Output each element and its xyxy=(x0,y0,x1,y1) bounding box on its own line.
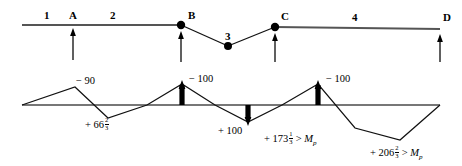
reaction-arrow-head-C xyxy=(272,33,278,41)
moment-label-pos-206-fraction: 23 xyxy=(395,145,399,159)
beam-segment-3-left xyxy=(181,25,228,46)
moment-label-pos-66: + 6623 xyxy=(85,117,109,131)
collapse-mechanism-group xyxy=(22,21,443,62)
joint-label-B: B xyxy=(188,10,195,21)
plastic-hinge-dot-C xyxy=(271,23,279,31)
beam-segment-4 xyxy=(275,27,440,29)
plastic-moment-symbol: Mp xyxy=(410,147,422,158)
greater-than-symbol: > xyxy=(296,133,302,144)
plastic-moment-bar-head-C xyxy=(315,80,322,89)
plastic-moment-symbol: Mp xyxy=(304,133,316,144)
reaction-arrow-head-A xyxy=(70,28,76,36)
support-reaction-arrows xyxy=(70,28,443,62)
greater-than-symbol: > xyxy=(402,147,408,158)
beam-segment-3-right xyxy=(228,27,275,46)
moment-label-pos-206-whole: + 206 xyxy=(370,147,394,158)
moment-label-pos-173: + 17313 > Mp xyxy=(264,131,317,147)
moment-label-pos-100: + 100 xyxy=(218,126,242,137)
moment-label-neg-90: − 90 xyxy=(76,76,95,87)
moment-label-pos-206: + 20623 > Mp xyxy=(370,145,423,161)
moment-label-pos-66-whole: + 66 xyxy=(85,119,104,130)
fraction-denominator: 3 xyxy=(289,139,293,146)
joint-label-A: A xyxy=(69,10,77,21)
plastic-moment-symbol-subscript: p xyxy=(313,139,317,147)
plastic-moment-symbol-base: M xyxy=(304,133,313,144)
plastic-hinge-dot-3 xyxy=(224,42,232,50)
reaction-arrow-head-B xyxy=(178,31,184,39)
joint-label-C: C xyxy=(281,11,289,22)
moment-label-neg-100-b: − 100 xyxy=(189,74,213,85)
plastic-hinge-dot-B xyxy=(177,21,185,29)
fraction-denominator: 3 xyxy=(395,153,399,160)
beam-moment-figure: 1 2 3 4 A B C D − 90 + 6623 − 100 + 100 … xyxy=(0,0,462,166)
figure-vector-layer xyxy=(0,0,462,166)
plastic-moment-symbol-base: M xyxy=(410,147,419,158)
span-label-1: 1 xyxy=(44,10,50,21)
span-label-4: 4 xyxy=(352,12,358,23)
span-label-3: 3 xyxy=(225,31,231,42)
moment-label-neg-100-c: − 100 xyxy=(326,74,350,85)
span-label-2: 2 xyxy=(110,10,116,21)
plastic-moment-bar-head-B xyxy=(179,80,186,89)
moment-label-pos-173-whole: + 173 xyxy=(264,133,288,144)
reaction-arrow-head-D xyxy=(437,34,443,42)
plastic-moment-symbol-subscript: p xyxy=(419,153,423,161)
moment-label-pos-173-fraction: 13 xyxy=(289,131,293,145)
joint-label-D: D xyxy=(443,12,451,23)
fraction-denominator: 3 xyxy=(105,125,109,132)
moment-label-pos-66-fraction: 23 xyxy=(105,117,109,131)
